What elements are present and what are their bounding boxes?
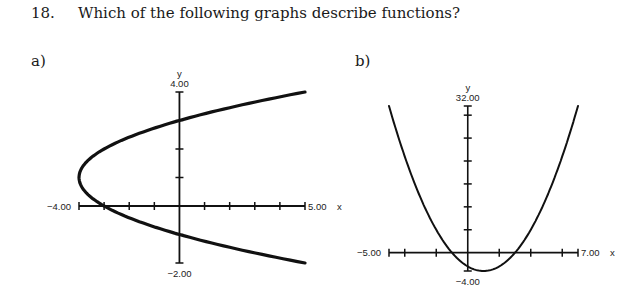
x-axis-title: x: [337, 201, 342, 212]
x-min-label: −5.00: [357, 247, 381, 258]
x-min-label: −4.00: [47, 201, 71, 212]
curve-b-line: [389, 106, 578, 271]
x-max-label: 5.00: [308, 201, 327, 212]
y-max-label: 4.00: [170, 78, 189, 89]
curve-a-line: [79, 92, 305, 263]
y-min-label: −2.00: [167, 268, 191, 279]
y-axis-title: y: [177, 68, 182, 79]
graph-b: −5.007.00x32.00y−4.00: [357, 82, 615, 287]
y-max-label: 32.00: [456, 92, 480, 103]
graph-a: −4.005.00x4.00y−2.00: [47, 68, 342, 279]
x-axis-title: x: [610, 247, 615, 258]
graphs-canvas: −4.005.00x4.00y−2.00 −5.007.00x32.00y−4.…: [0, 0, 638, 300]
y-axis-title: y: [465, 82, 470, 93]
y-min-label: −4.00: [456, 276, 480, 287]
x-max-label: 7.00: [581, 247, 600, 258]
